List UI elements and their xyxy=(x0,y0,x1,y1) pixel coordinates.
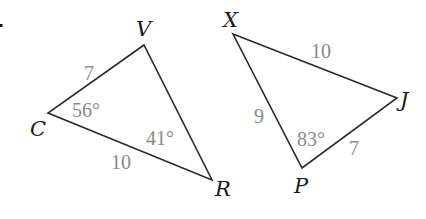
triangle-xjp: X J P 10 9 7 83° xyxy=(221,8,410,198)
vertex-label-v: V xyxy=(136,17,153,41)
angle-label-p: 83° xyxy=(297,128,325,150)
vertex-label-p: P xyxy=(293,174,309,198)
side-label-cv: 7 xyxy=(84,62,94,84)
triangle-cvr: V C R 7 10 56° 41° xyxy=(30,17,231,201)
list-marker xyxy=(0,24,3,27)
vertex-label-r: R xyxy=(214,177,231,201)
angle-label-c: 56° xyxy=(72,99,100,121)
side-label-cr: 10 xyxy=(111,151,131,173)
side-label-pj: 7 xyxy=(349,137,359,159)
angle-label-r: 41° xyxy=(146,127,174,149)
triangles-diagram: V C R 7 10 56° 41° X J P 10 9 7 83° xyxy=(0,0,426,219)
vertex-label-x: X xyxy=(221,8,239,32)
vertex-label-c: C xyxy=(30,117,46,141)
side-label-xp: 9 xyxy=(254,105,264,127)
vertex-label-j: J xyxy=(396,88,410,112)
side-label-xj: 10 xyxy=(311,40,331,62)
